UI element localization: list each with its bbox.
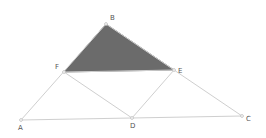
point-d-icon xyxy=(131,117,134,120)
label-e: E xyxy=(178,67,182,75)
point-c-icon xyxy=(241,115,244,118)
points-group xyxy=(20,23,244,122)
label-a: A xyxy=(18,124,23,132)
point-f-icon xyxy=(63,71,66,74)
label-d: D xyxy=(130,122,135,130)
point-e-icon xyxy=(173,69,176,72)
point-a-icon xyxy=(20,119,23,122)
shaded-triangle-bfe xyxy=(64,24,174,72)
labels-group: ABCDEF xyxy=(18,14,251,132)
label-b: B xyxy=(110,14,115,22)
segment-fd xyxy=(64,72,132,118)
geometry-diagram: ABCDEF xyxy=(0,0,266,138)
segments-group xyxy=(21,24,242,120)
label-c: C xyxy=(246,115,251,123)
point-b-icon xyxy=(105,23,108,26)
segment-de xyxy=(132,70,174,118)
label-f: F xyxy=(55,63,59,71)
